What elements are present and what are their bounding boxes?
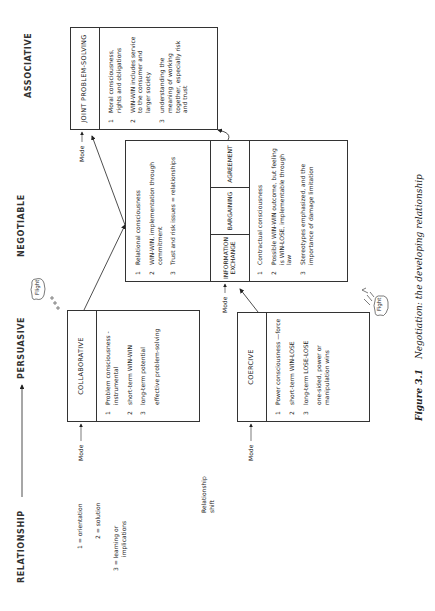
diagram-canvas: RELATIONSHIP PERSUASIVE NEGOTIABLE ASSOC…	[0, 0, 435, 611]
legend-learning: 3 = learning or implications	[112, 521, 128, 571]
list-item: 2Possible WIN-WIN outcome, but feeling i…	[270, 145, 293, 275]
legend: 1 = orientation	[76, 504, 84, 549]
joint-title: JOINT PROBLEM-SOLVING	[71, 28, 100, 129]
list-item: 2short-term WIN-LOSE	[288, 317, 296, 415]
collaborative-list: 1Problem consciousness -instrumental 2sh…	[104, 315, 167, 415]
figure-caption: Figure 3.1Negotiation: the developing re…	[407, 174, 426, 421]
coercive-note: one-sided, power or manipulation wins	[315, 317, 331, 415]
list-item: 1Moral consciousness, rights and obligat…	[107, 32, 123, 123]
list-item: 3long-term potential	[139, 315, 147, 415]
list-item: 3Trust and risk issues = relationships	[169, 145, 177, 275]
phase-agreement: AGREEMENT	[211, 141, 249, 187]
coercive-box: COERCIVE 1Power consciousness —force 2sh…	[237, 312, 370, 422]
list-item: 3Stereotypes emphasized, and the importa…	[299, 145, 315, 275]
list-item: 3long-term LOSE-LOSE	[302, 317, 310, 415]
phase-information-exchange: INFORMATION EXCHANGE	[211, 234, 249, 281]
joint-problem-solving-box: JOINT PROBLEM-SOLVING 1Moral consciousne…	[70, 27, 218, 130]
collaborative-box: COLLABORATIVE 1Problem consciousness -in…	[67, 310, 200, 422]
legend-orientation: 1 = orientation	[76, 504, 84, 549]
joint-list: 1Moral consciousness, rights and obligat…	[107, 32, 195, 123]
list-item: 1Problem consciousness -instrumental	[104, 315, 120, 415]
phase-bargaining: BARGAINING	[211, 187, 249, 234]
header-associative: ASSOCIATIVE	[24, 33, 33, 98]
relationship-shift-label: Relationship shift	[200, 476, 216, 513]
figure-title: Negotiation: the developing relationship	[414, 174, 424, 359]
negotiable-box: 1Relational consciousness 2WIN-WIN, impl…	[125, 140, 348, 282]
list-item: 2WIN-WIN includes service to the consume…	[129, 32, 152, 123]
list-item: 2short-term WIN-WIN	[126, 315, 134, 415]
header-negotiable: NEGOTIABLE	[17, 194, 26, 257]
list-item: 1Relational consciousness	[134, 145, 142, 275]
mode-label-joint: Mode	[78, 146, 85, 162]
list-item: 1Power consciousness —force	[274, 317, 282, 415]
flight-bubble: Flight	[34, 280, 40, 295]
mode-label-coercive: Mode	[247, 445, 254, 461]
list-item: 1Contractual consciousness	[256, 145, 264, 275]
list-item: 3understanding the meaning of working to…	[158, 32, 189, 123]
fight-bubble: Fight	[376, 298, 382, 311]
collaborative-note: effective problem-solving	[153, 315, 161, 415]
mode-label-negotiable: Mode	[221, 297, 228, 313]
coercive-title: COERCIVE	[238, 313, 267, 421]
negotiable-upper-list: 1Relational consciousness 2WIN-WIN, impl…	[134, 145, 214, 275]
header-persuasive: PERSUASIVE	[17, 317, 26, 379]
figure-number: Figure 3.1	[414, 369, 424, 421]
negotiable-lower-list: 1Contractual consciousness 2Possible WIN…	[256, 145, 321, 275]
mode-label-collaborative: Mode	[77, 445, 84, 461]
negotiation-phase-columns: INFORMATION EXCHANGE BARGAINING AGREEMEN…	[210, 141, 250, 281]
list-item: 2WIN-WIN, implementation through commitm…	[148, 145, 164, 275]
collaborative-title: COLLABORATIVE	[68, 311, 97, 421]
coercive-list: 1Power consciousness —force 2short-term …	[274, 317, 337, 415]
header-relationship: RELATIONSHIP	[17, 510, 26, 583]
legend-solution: 2 = solution	[94, 503, 102, 539]
